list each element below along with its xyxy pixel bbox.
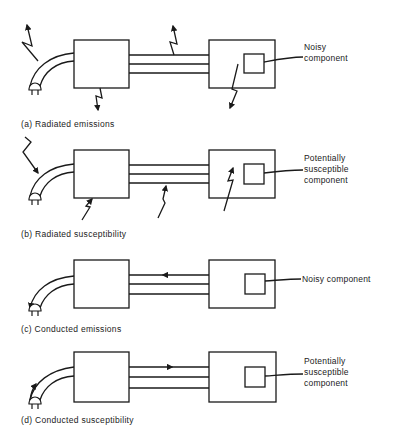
- radiation-bolt-icon: [82, 199, 92, 220]
- component-box: [245, 274, 265, 294]
- radiation-bolt-icon: [22, 25, 38, 61]
- component-box: [244, 164, 264, 184]
- load-equipment-box: [209, 352, 276, 402]
- component-box: [244, 54, 264, 73]
- component-label: component: [304, 175, 348, 185]
- emc-coupling-diagram: Noisy component (a) Radiated emissions P…: [0, 0, 397, 435]
- power-cord: [29, 276, 74, 316]
- interconnect-cable: [129, 275, 209, 294]
- component-label: Potentially: [304, 153, 346, 163]
- panel-caption: (a) Radiated emissions: [21, 119, 115, 129]
- component-label: component: [304, 378, 348, 388]
- plug-icon: [29, 397, 41, 409]
- panel-caption: (d) Conducted susceptibility: [21, 415, 134, 425]
- panel-a-radiated-emissions: Noisy component (a) Radiated emissions: [21, 25, 348, 129]
- interconnect-cable: [129, 55, 209, 73]
- source-equipment-box: [74, 260, 129, 308]
- load-equipment-box: [209, 40, 275, 88]
- radiation-bolt-icon: [170, 26, 177, 55]
- plug-icon: [29, 304, 41, 316]
- radiation-bolt-icon: [96, 88, 102, 110]
- source-equipment-box: [74, 40, 129, 88]
- component-label: susceptible: [304, 164, 349, 174]
- source-equipment-box: [74, 150, 129, 198]
- panel-c-conducted-emissions: Noisy component (c) Conducted emissions: [21, 260, 371, 334]
- component-label: component: [304, 53, 348, 63]
- plug-icon: [29, 83, 41, 95]
- component-label: Potentially: [304, 356, 346, 366]
- panel-b-radiated-susceptibility: Potentially susceptible component (b) Ra…: [21, 137, 349, 239]
- source-equipment-box: [74, 352, 129, 402]
- load-equipment-box: [209, 150, 275, 198]
- component-label: Noisy component: [302, 274, 371, 284]
- component-label: susceptible: [304, 367, 349, 377]
- power-cord: [29, 367, 74, 409]
- component-label: Noisy: [304, 42, 327, 52]
- component-box: [245, 367, 265, 387]
- radiation-bolt-icon: [23, 137, 38, 173]
- panel-d-conducted-susceptibility: Potentially susceptible component (d) Co…: [21, 352, 349, 425]
- interconnect-cable: [129, 367, 209, 388]
- panel-caption: (c) Conducted emissions: [21, 324, 121, 334]
- radiation-bolt-icon: [158, 186, 166, 218]
- plug-icon: [29, 193, 41, 205]
- panel-caption: (b) Radiated susceptibility: [21, 229, 127, 239]
- interconnect-cable: [129, 165, 209, 183]
